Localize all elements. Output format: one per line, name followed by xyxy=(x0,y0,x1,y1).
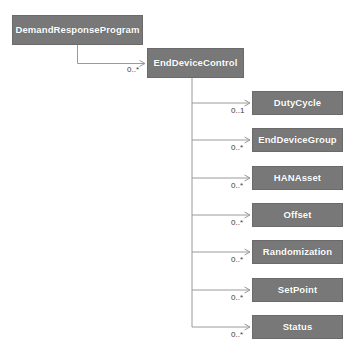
multiplicity-label: 0..* xyxy=(231,219,243,227)
class-box-label: SetPoint xyxy=(278,285,317,295)
class-box-label: Randomization xyxy=(263,247,332,257)
arrowhead-icon xyxy=(245,324,251,330)
multiplicity-label: 0..* xyxy=(231,331,243,339)
multiplicity-label: 0..* xyxy=(231,256,243,264)
class-box-end-device-group[interactable]: EndDeviceGroup xyxy=(252,128,343,152)
class-box-label: EndDeviceControl xyxy=(154,58,238,68)
class-box-label: HANAsset xyxy=(274,173,321,183)
arrowhead-icon xyxy=(245,287,251,293)
class-box-hana-asset[interactable]: HANAsset xyxy=(252,166,343,190)
class-box-duty-cycle[interactable]: DutyCycle xyxy=(252,91,343,115)
multiplicity-label: 0..1 xyxy=(231,107,244,115)
multiplicity-label: 0..* xyxy=(231,144,243,152)
arrowhead-icon xyxy=(245,100,251,106)
class-box-label: Status xyxy=(283,322,313,332)
arrowhead-icon xyxy=(245,137,251,143)
arrowhead-icon xyxy=(245,212,251,218)
class-box-end-device-control[interactable]: EndDeviceControl xyxy=(147,48,244,78)
multiplicity-label: 0..* xyxy=(127,66,139,74)
association-edge xyxy=(78,45,146,64)
arrowhead-icon xyxy=(245,249,251,255)
class-box-label: DemandResponseProgram xyxy=(15,25,139,35)
class-box-demand-response-program[interactable]: DemandResponseProgram xyxy=(12,15,143,45)
class-box-label: Offset xyxy=(283,210,311,220)
class-box-offset[interactable]: Offset xyxy=(252,203,343,227)
class-box-label: DutyCycle xyxy=(274,98,321,108)
class-box-label: EndDeviceGroup xyxy=(258,135,336,145)
class-box-status[interactable]: Status xyxy=(252,315,343,339)
multiplicity-label: 0..* xyxy=(231,182,243,190)
association-edge xyxy=(192,78,250,103)
arrowhead-icon xyxy=(140,61,146,67)
uml-diagram-canvas: 0..*0..10..*0..*0..*0..*0..*0..*DemandRe… xyxy=(0,0,355,356)
class-box-set-point[interactable]: SetPoint xyxy=(252,278,343,302)
class-box-randomization[interactable]: Randomization xyxy=(252,240,343,264)
arrowhead-icon xyxy=(245,175,251,181)
multiplicity-label: 0..* xyxy=(231,294,243,302)
